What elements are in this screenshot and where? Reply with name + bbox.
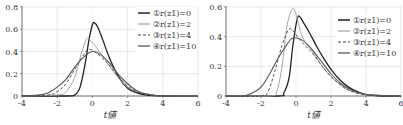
legend-label: ③r(z1)=4: [153, 31, 191, 40]
y-tick-label: 0.2: [209, 62, 222, 71]
y-tick-label: 0: [13, 92, 18, 101]
x-tick-label: 0: [293, 99, 298, 108]
y-tick-label: 0.4: [209, 33, 222, 42]
series-line: [22, 49, 198, 96]
legend-label: ①r(z1)=0: [153, 9, 191, 18]
x-tick-label: -4: [222, 99, 230, 108]
legend-label: ②r(z1)=2: [153, 20, 191, 29]
y-tick-label: 0.4: [5, 48, 18, 57]
chart-panel-2: -4-2024600.20.40.6①r(z1)=0②r(z1)=2③r(z1)…: [209, 3, 403, 120]
legend-label: ②r(z1)=2: [353, 27, 391, 36]
legend-label: ①r(z1)=0: [353, 16, 391, 25]
legend: ①r(z1)=0②r(z1)=2③r(z1)=4④r(z1)=10: [135, 7, 197, 53]
x-tick-label: -2: [257, 99, 265, 108]
y-tick-label: 0.6: [5, 25, 18, 34]
y-tick-label: 0.6: [209, 3, 222, 12]
x-tick-label: 4: [160, 99, 165, 108]
legend-label: ④r(z1)=10: [353, 49, 396, 58]
legend-label: ④r(z1)=10: [153, 42, 196, 51]
x-tick-label: 6: [398, 99, 403, 108]
x-tick-label: 0: [90, 99, 95, 108]
x-tick-label: 2: [125, 99, 130, 108]
chart-panel-1: -4-2024600.20.40.60.8①r(z1)=0②r(z1)=2③r(…: [5, 3, 200, 120]
x-tick-label: 4: [363, 99, 368, 108]
legend-label: ③r(z1)=4: [353, 38, 391, 47]
x-axis-label: t値: [307, 110, 322, 120]
x-tick-label: -4: [18, 99, 26, 108]
y-tick-label: 0: [217, 92, 222, 101]
y-tick-label: 0.2: [5, 70, 18, 79]
y-tick-label: 0.8: [5, 3, 18, 12]
x-tick-label: 6: [195, 99, 200, 108]
x-axis-label: t値: [104, 110, 119, 120]
legend: ①r(z1)=0②r(z1)=2③r(z1)=4④r(z1)=10: [335, 14, 400, 60]
x-tick-label: 2: [328, 99, 333, 108]
x-tick-label: -2: [53, 99, 61, 108]
chart-figure: -4-2024600.20.40.60.8①r(z1)=0②r(z1)=2③r(…: [0, 0, 403, 125]
